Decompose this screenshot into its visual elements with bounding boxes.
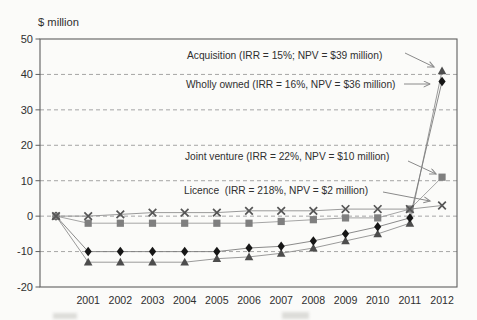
y-tick-label: -10 <box>17 245 33 257</box>
y-tick-label: 40 <box>21 68 33 80</box>
square-marker <box>438 174 445 181</box>
x-tick-label: 2007 <box>269 294 293 306</box>
square-marker <box>342 214 349 221</box>
y-tick-label: -20 <box>17 281 33 293</box>
joint-venture-annotation-label: Joint venture (IRR = 22%, NPV = $10 mill… <box>185 151 389 162</box>
square-marker <box>85 220 92 227</box>
page-bleed-artifact <box>53 313 77 319</box>
x-tick-label: 2010 <box>366 294 390 306</box>
square-marker <box>245 220 252 227</box>
y-tick-label: 20 <box>21 139 33 151</box>
x-tick-label: 2006 <box>237 294 261 306</box>
square-marker <box>310 216 317 223</box>
square-marker <box>149 220 156 227</box>
cumulative-cashflow-chart: 50403020100-10-2020012002200320042005200… <box>0 0 477 320</box>
x-tick-label: 2011 <box>398 294 421 306</box>
acquisition-annotation-label: Acquisition (IRR = 15%; NPV = $39 millio… <box>187 50 382 61</box>
wholly-owned-annotation-label: Wholly owned (IRR = 16%, NPV = $36 milli… <box>186 79 396 90</box>
x-tick-label: 2008 <box>302 294 326 306</box>
scanned-chart-page: 50403020100-10-2020012002200320042005200… <box>0 0 477 320</box>
x-tick-label: 2009 <box>334 294 358 306</box>
x-tick-label: 2012 <box>430 294 454 306</box>
square-marker <box>278 218 285 225</box>
y-tick-label: 30 <box>21 104 33 116</box>
x-tick-label: 2004 <box>173 294 197 306</box>
licence-annotation-label: Licence (IRR = 218%, NPV = $2 million) <box>184 185 368 196</box>
x-tick-label: 2003 <box>141 294 165 306</box>
square-marker <box>374 214 381 221</box>
page-bleed-artifact <box>282 312 309 319</box>
square-marker <box>181 220 188 227</box>
y-tick-label: 50 <box>21 33 33 45</box>
y-tick-label: 10 <box>21 175 33 187</box>
square-marker <box>117 220 124 227</box>
x-tick-label: 2001 <box>76 294 100 306</box>
square-marker <box>213 220 220 227</box>
x-tick-label: 2005 <box>205 294 229 306</box>
x-tick-label: 2002 <box>109 294 133 306</box>
y-axis-unit-label: $ million <box>38 16 79 28</box>
y-tick-label: 0 <box>27 210 33 222</box>
